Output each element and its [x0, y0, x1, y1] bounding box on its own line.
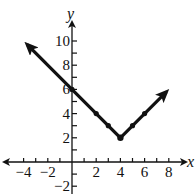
y-axis-label: y	[65, 5, 75, 23]
y-tick-label: 4	[63, 106, 71, 122]
x-tick-label: 4	[117, 164, 125, 180]
data-point	[117, 135, 123, 141]
data-point	[69, 87, 74, 92]
x-tick-label: 8	[165, 164, 173, 180]
data-point	[142, 111, 147, 116]
data-point	[130, 123, 135, 128]
plot-line	[27, 45, 166, 141]
y-tick-label: 10	[55, 33, 70, 49]
y-tick-label: −2	[54, 178, 70, 194]
x-axis-label: x	[186, 153, 194, 170]
data-point	[94, 111, 99, 116]
y-tick-label: 2	[63, 130, 71, 146]
data-point	[106, 123, 111, 128]
y-tick-label: 8	[63, 57, 71, 73]
graph: xy −4−22468−2246810	[0, 0, 195, 194]
x-tick-label: 2	[92, 164, 100, 180]
x-tick-label: −4	[16, 164, 32, 180]
x-tick-label: 6	[141, 164, 149, 180]
